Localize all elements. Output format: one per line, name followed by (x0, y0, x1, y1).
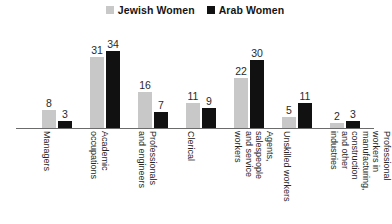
chart-legend: Jewish Women Arab Women (0, 4, 390, 16)
bar-value-label: 9 (206, 96, 212, 107)
category-label: Unskilled workers (281, 131, 292, 202)
bar-value-label: 22 (235, 66, 247, 77)
bar-value-label: 2 (334, 111, 340, 122)
bar-value-label: 30 (251, 48, 263, 59)
bar-group: 167 (138, 27, 168, 128)
bar-rect (90, 57, 104, 128)
bar-group: 511 (282, 27, 312, 128)
bar-rect (250, 60, 264, 128)
bar-value-label: 7 (158, 100, 164, 111)
bar-rect (234, 78, 248, 128)
legend-entry-jewish-women: Jewish Women (106, 4, 195, 16)
bar[interactable]: 2 (330, 27, 344, 128)
bar-value-label: 16 (139, 80, 151, 91)
bar-rect (330, 123, 344, 128)
legend-swatch-icon (207, 6, 215, 14)
bar[interactable]: 11 (186, 27, 200, 128)
legend-swatch-icon (106, 6, 114, 14)
category-label: Academicoccupations (89, 131, 110, 179)
bar-value-label: 3 (350, 109, 356, 120)
bar[interactable]: 22 (234, 27, 248, 128)
bar-group: 23 (330, 27, 360, 128)
bar-rect (346, 121, 360, 128)
bar[interactable]: 9 (202, 27, 216, 128)
bar-rect (154, 112, 168, 128)
bar-group: 2230 (234, 27, 264, 128)
bar[interactable]: 16 (138, 27, 152, 128)
bar-value-label: 8 (46, 98, 52, 109)
bar-group: 83 (42, 27, 72, 128)
bar-group: 119 (186, 27, 216, 128)
x-axis-baseline (16, 128, 374, 129)
bar-rect (298, 103, 312, 128)
bar[interactable]: 11 (298, 27, 312, 128)
bar-rect (202, 108, 216, 129)
bar-value-label: 3 (62, 109, 68, 120)
bar-value-label: 11 (188, 91, 199, 102)
bar-rect (58, 121, 72, 128)
bar[interactable]: 5 (282, 27, 296, 128)
bar[interactable]: 3 (346, 27, 360, 128)
legend-label: Arab Women (219, 4, 285, 16)
bar-value-label: 34 (107, 39, 119, 50)
legend-entry-arab-women: Arab Women (207, 4, 285, 16)
bar-group: 3134 (90, 27, 120, 128)
bar-value-label: 5 (286, 105, 292, 116)
bar[interactable]: 8 (42, 27, 56, 128)
x-axis-category-labels: ManagersAcademicoccupationsProfessionals… (16, 131, 374, 224)
category-label: Clerical (185, 131, 196, 161)
category-label: Professionalsand engineers (137, 131, 158, 188)
bar-rect (138, 92, 152, 128)
bar[interactable]: 3 (58, 27, 72, 128)
bar[interactable]: 30 (250, 27, 264, 128)
bar-rect (186, 103, 200, 128)
bar[interactable]: 7 (154, 27, 168, 128)
bar-rect (282, 117, 296, 128)
bar-value-label: 11 (300, 91, 311, 102)
legend-label: Jewish Women (118, 4, 195, 16)
bar-value-label: 31 (91, 45, 103, 56)
plot-area: 833134167119223051123 (16, 27, 374, 129)
category-label: Professionalworkers inmanufacturing,cons… (329, 131, 392, 191)
category-label: Managers (41, 131, 52, 171)
bar[interactable]: 31 (90, 27, 104, 128)
category-label: Agents,salespeopleand serviceworkers (233, 131, 275, 179)
bar[interactable]: 34 (106, 27, 120, 128)
bar-rect (42, 110, 56, 128)
bar-rect (106, 51, 120, 128)
